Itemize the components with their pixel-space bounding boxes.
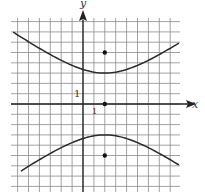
- hyperbola-graph: [0, 0, 205, 192]
- center-point: [103, 102, 107, 106]
- x-axis-label: x: [192, 99, 198, 110]
- upper-focus-point: [103, 50, 107, 54]
- lower-focus-point: [103, 153, 107, 157]
- y-tick-label-1: 1: [74, 89, 80, 99]
- grid-lines: [11, 18, 180, 192]
- x-tick-label-1: 1: [92, 108, 97, 116]
- y-axis-label: y: [80, 0, 86, 9]
